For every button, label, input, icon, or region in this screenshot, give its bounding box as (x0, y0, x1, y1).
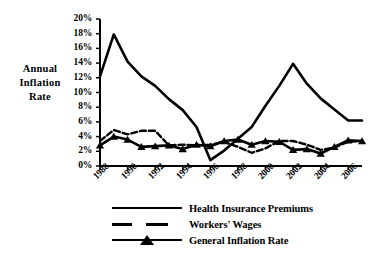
dash-swatch-left (112, 223, 132, 226)
legend-item-workers-wages: Workers' Wages (110, 216, 360, 232)
chart-figure: Annual Inflation Rate 0%2%4%6%8%10%12%14… (0, 0, 369, 265)
legend-item-health-insurance-premiums: Health Insurance Premiums (110, 200, 360, 216)
legend-item-general-inflation-rate: General Inflation Rate (110, 232, 360, 248)
legend-label-health-insurance-premiums: Health Insurance Premiums (189, 203, 313, 214)
triangle-marker-line-key (110, 233, 184, 247)
legend-label-general-inflation-rate: General Inflation Rate (189, 235, 288, 246)
legend-label-workers-wages: Workers' Wages (189, 219, 261, 230)
dashed-line-key (110, 217, 184, 231)
line-swatch (112, 207, 182, 209)
dash-swatch-right (146, 223, 168, 226)
triangle-icon (140, 235, 154, 245)
solid-line-key (110, 201, 184, 215)
chart-legend: Health Insurance Premiums Workers' Wages… (110, 200, 360, 248)
chart-series (96, 34, 366, 160)
